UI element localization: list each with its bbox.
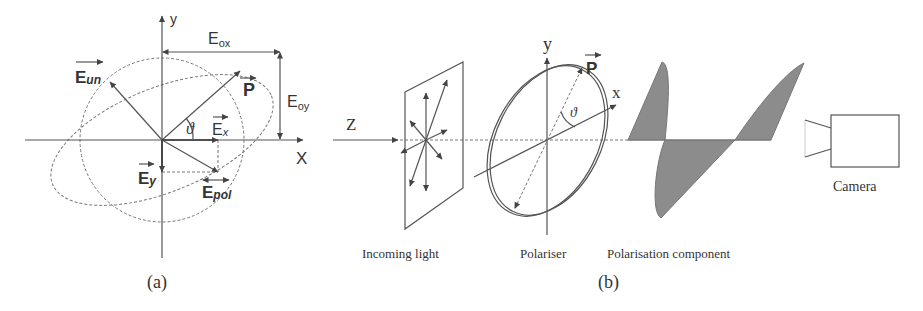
polariser-p-label: P bbox=[585, 55, 601, 78]
incoming-light-plane bbox=[405, 62, 463, 229]
e-oy-label: Eoy bbox=[287, 93, 310, 112]
theta-label: ϑ bbox=[186, 120, 195, 137]
panel-b: Z Incoming light ϑ y x bbox=[333, 34, 899, 293]
e-ox-label: Eox bbox=[208, 30, 231, 49]
panel-a-caption: (a) bbox=[147, 272, 167, 293]
svg-text:Ex: Ex bbox=[212, 121, 229, 138]
p-vector-label: P bbox=[240, 78, 256, 100]
z-label: Z bbox=[346, 115, 356, 134]
polariser-label: Polariser bbox=[520, 246, 567, 261]
polariser-theta-label: ϑ bbox=[570, 105, 578, 120]
polariser-transmission-axis bbox=[515, 68, 582, 208]
svg-text:P: P bbox=[243, 80, 255, 100]
camera-label: Camera bbox=[833, 179, 877, 194]
svg-text:Epol: Epol bbox=[202, 183, 232, 202]
polariser-x-axis bbox=[474, 105, 616, 177]
e-pol-vector-arrow bbox=[162, 140, 218, 172]
svg-text:P: P bbox=[586, 59, 597, 78]
polariser-x-label: x bbox=[612, 83, 621, 102]
polariser-y-label: y bbox=[543, 34, 552, 54]
e-un-vector-arrow bbox=[110, 82, 162, 140]
p-vector-arrow bbox=[162, 71, 240, 140]
svg-text:Ey: Ey bbox=[138, 169, 157, 188]
svg-text:Eun: Eun bbox=[75, 68, 101, 87]
e-x-label: Ex bbox=[212, 117, 229, 138]
polarisation-wave bbox=[628, 62, 804, 218]
e-un-label: Eun bbox=[75, 62, 103, 87]
polarisation-diagram: y X Eox Eoy Eun P ϑ Ex Ey Epol ( bbox=[0, 0, 923, 311]
panel-a: y X Eox Eoy Eun P ϑ Ex Ey Epol ( bbox=[25, 11, 310, 293]
e-pol-label: Epol bbox=[202, 180, 232, 202]
y-axis-label: y bbox=[170, 11, 177, 27]
e-y-label: Ey bbox=[138, 164, 157, 188]
camera-icon bbox=[805, 115, 899, 167]
incoming-light-label: Incoming light bbox=[362, 246, 439, 261]
panel-b-caption: (b) bbox=[598, 272, 619, 293]
x-axis-label: X bbox=[296, 149, 307, 168]
polarisation-component-label: Polarisation component bbox=[607, 246, 731, 261]
random-polarisation-arrows bbox=[401, 80, 447, 191]
